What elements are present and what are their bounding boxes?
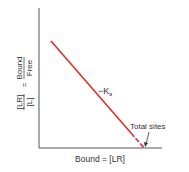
y-axis-label: [LR] [L] = Bound Free [15,56,34,110]
total-sites-arrow [146,132,149,144]
svg-text:[L]: [L] [25,98,34,107]
binding-line-extrapolation [131,133,144,148]
svg-text:Bound: Bound [15,56,24,79]
binding-line [51,41,131,133]
slope-label: −Ka [98,86,112,97]
scatchard-plot: −Ka Total sites Bound = [LR] [LR] [L] = … [0,0,189,172]
x-axis-label: Bound = [LR] [75,154,125,164]
arrowhead-icon [144,142,148,147]
svg-text:=: = [20,82,29,87]
svg-text:[LR]: [LR] [15,95,24,110]
total-sites-label: Total sites [130,122,166,131]
svg-text:Free: Free [25,59,34,76]
